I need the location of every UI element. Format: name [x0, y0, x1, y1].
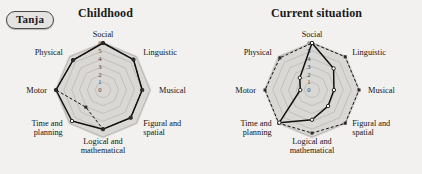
- data-marker: [72, 59, 75, 62]
- data-marker: [326, 104, 329, 107]
- axis-label: Logical andmathematical: [81, 137, 126, 155]
- data-marker: [332, 88, 335, 91]
- data-marker: [132, 58, 135, 61]
- data-marker: [311, 132, 314, 135]
- data-marker: [299, 88, 302, 91]
- data-marker: [129, 116, 132, 119]
- axis-label: Physical: [35, 48, 64, 57]
- radar-chart-current: 0123456SocialLinguisticMusicalFigural an…: [211, 18, 422, 174]
- data-marker: [278, 121, 281, 124]
- axis-label: Time andplanning: [31, 119, 63, 137]
- radial-tick-label: 2: [98, 71, 101, 78]
- data-marker: [102, 128, 105, 131]
- axis-label: Musical: [159, 86, 186, 95]
- chart-panel-current: Current situation 0123456SocialLinguisti…: [211, 0, 422, 174]
- radial-tick-label: 1: [98, 78, 101, 85]
- data-marker: [332, 67, 335, 70]
- data-marker: [310, 118, 313, 121]
- axis-label: Linguistic: [352, 48, 386, 57]
- data-marker: [310, 41, 313, 44]
- axis-label: Social: [93, 30, 114, 39]
- data-marker: [141, 89, 144, 92]
- axis-label: Motor: [235, 86, 256, 95]
- data-marker: [84, 106, 87, 109]
- axis-label: Figural andspatial: [352, 119, 391, 137]
- axis-label: Musical: [368, 86, 395, 95]
- axis-label: Social: [302, 30, 323, 39]
- radar-chart-childhood: 0123456SocialLinguisticMusicalFigural an…: [0, 18, 211, 174]
- data-marker: [102, 42, 105, 45]
- radial-tick-label: 2: [307, 71, 310, 78]
- data-marker: [344, 55, 347, 58]
- data-marker: [344, 122, 347, 125]
- radial-tick-label: 1: [307, 78, 310, 85]
- axis-label: Linguistic: [143, 48, 177, 57]
- radar-backdrop: [55, 42, 152, 139]
- axis-label: Logical andmathematical: [290, 137, 335, 155]
- data-marker: [278, 56, 281, 59]
- data-marker: [55, 89, 58, 92]
- axis-label: Physical: [244, 48, 273, 57]
- data-marker: [264, 89, 267, 92]
- axis-label: Motor: [26, 86, 47, 95]
- data-marker: [358, 89, 361, 92]
- chart-panel-childhood: Childhood 0123456SocialLinguisticMusical…: [0, 0, 211, 174]
- data-marker: [70, 119, 73, 122]
- data-marker: [298, 76, 301, 79]
- radar-svg-childhood: 0123456SocialLinguisticMusicalFigural an…: [0, 18, 211, 174]
- radar-svg-current: 0123456SocialLinguisticMusicalFigural an…: [211, 18, 422, 174]
- axis-label: Time andplanning: [240, 119, 272, 137]
- axis-label: Figural andspatial: [143, 119, 182, 137]
- figure-root: Tanja Childhood 0123456SocialLinguisticM…: [0, 0, 422, 174]
